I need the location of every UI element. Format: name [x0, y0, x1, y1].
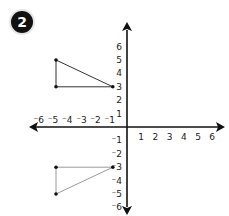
y-axis-top-arrow — [122, 22, 132, 31]
x-tick-label: 3 — [167, 132, 173, 142]
axes — [29, 22, 225, 215]
y-tick-label: ⁻5 — [112, 189, 122, 199]
y-tick-label: 3 — [116, 82, 122, 92]
y-tick-label: 6 — [116, 42, 122, 52]
y-tick-label: ⁻1 — [112, 135, 122, 145]
vertex-point — [54, 85, 58, 89]
x-tick-label: 2 — [153, 132, 159, 142]
x-axis-tick-labels: ⁻6⁻5⁻4⁻3⁻2⁻1123456 — [34, 115, 216, 142]
lower-triangle — [54, 165, 114, 195]
y-tick-label: 5 — [116, 55, 122, 65]
upper-triangle — [54, 58, 114, 88]
y-tick-label: ⁻2 — [112, 149, 122, 159]
x-tick-label: ⁻4 — [62, 115, 73, 125]
x-tick-label: ⁻3 — [76, 115, 86, 125]
x-tick-label: 6 — [209, 132, 215, 142]
vertex-point — [54, 165, 58, 169]
x-tick-label: 1 — [138, 132, 144, 142]
vertex-point — [54, 192, 58, 196]
x-tick-label: ⁻2 — [90, 115, 100, 125]
y-tick-label: ⁻4 — [112, 176, 123, 186]
problem-number-badge: 2 — [9, 9, 35, 35]
x-tick-label: 4 — [181, 132, 187, 142]
vertex-point — [111, 165, 115, 169]
x-tick-label: ⁻6 — [34, 115, 45, 125]
problem-number: 2 — [17, 14, 27, 30]
y-tick-label: 1 — [116, 109, 122, 119]
vertex-point — [54, 58, 58, 62]
coordinate-plane: 2 ⁻6⁻5⁻4⁻3⁻2⁻1123456 654321⁻1⁻2⁻3⁻4⁻5⁻6 — [0, 0, 229, 216]
lower-triangle-outline — [56, 167, 113, 194]
y-tick-label: 4 — [116, 68, 122, 78]
x-tick-label: ⁻5 — [48, 115, 58, 125]
vertex-point — [111, 85, 115, 89]
y-tick-label: ⁻6 — [112, 202, 123, 212]
y-axis-bottom-arrow — [122, 206, 132, 215]
x-tick-label: 5 — [195, 132, 201, 142]
y-tick-label: 2 — [116, 95, 122, 105]
x-tick-label: ⁻1 — [105, 115, 115, 125]
upper-triangle-outline — [56, 60, 113, 87]
